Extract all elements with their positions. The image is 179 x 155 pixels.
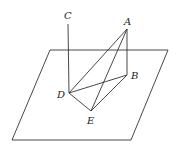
label-d: D: [56, 89, 65, 100]
segment-cd: [68, 24, 69, 93]
label-a: A: [123, 16, 131, 27]
label-e: E: [86, 115, 95, 126]
label-b: B: [130, 70, 138, 81]
plane: [12, 50, 168, 140]
geometry-diagram: A B C D E: [0, 0, 179, 155]
segment-ae: [91, 29, 127, 111]
label-c: C: [64, 10, 72, 21]
segment-de: [69, 93, 91, 111]
